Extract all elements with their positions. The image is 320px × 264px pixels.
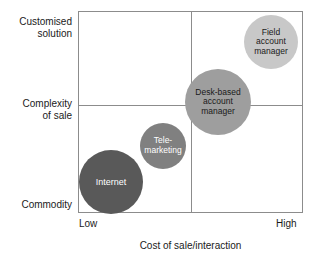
- plot-area: Internet Tele- marketing Desk-based acco…: [78, 11, 303, 213]
- chart-figure: Customised solution Complexity of sale C…: [0, 0, 320, 264]
- y-axis-label-commodity: Commodity: [0, 199, 72, 211]
- y-axis-label-complexity-of-sale: Complexity of sale: [0, 98, 72, 122]
- bubble-desk-based-account-manager[interactable]: Desk-based account manager: [185, 69, 251, 135]
- bubble-telemarketing[interactable]: Tele- marketing: [140, 123, 186, 169]
- bubble-field-account-manager[interactable]: Field account manager: [244, 15, 298, 69]
- bubble-desk-based-account-manager-label: Desk-based account manager: [194, 88, 241, 117]
- bubble-internet[interactable]: Internet: [79, 150, 143, 214]
- bubble-telemarketing-label: Tele- marketing: [143, 136, 182, 155]
- x-axis-tick-high: High: [276, 218, 297, 229]
- bubble-field-account-manager-label: Field account manager: [253, 28, 289, 57]
- bubble-internet-label: Internet: [95, 177, 128, 187]
- x-axis-title: Cost of sale/interaction: [78, 240, 303, 251]
- x-axis-tick-low: Low: [79, 218, 97, 229]
- y-axis-label-customised-solution: Customised solution: [0, 16, 72, 40]
